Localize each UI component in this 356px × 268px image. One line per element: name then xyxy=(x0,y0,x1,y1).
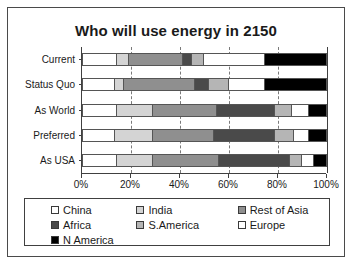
legend-swatch-icon xyxy=(51,206,59,214)
chart-title: Who will use energy in 2150 xyxy=(8,22,344,39)
bar-row: Preferred xyxy=(82,129,327,142)
chart-legend: ChinaIndiaRest of AsiaAfricaS.AmericaEur… xyxy=(24,198,330,246)
legend-item-n-america[interactable]: N America xyxy=(25,234,137,246)
legend-label: China xyxy=(63,204,92,216)
stacked-bar xyxy=(82,129,327,142)
bar-segment-rest-of-asia xyxy=(153,130,214,141)
legend-label: India xyxy=(148,204,172,216)
bar-segment-africa xyxy=(183,54,193,65)
bar-segment-rest-of-asia xyxy=(129,54,182,65)
bar-segment-rest-of-asia xyxy=(153,105,216,116)
bar-row: Status Quo xyxy=(82,78,327,91)
bar-segment-europe xyxy=(229,79,265,90)
bar-row: As USA xyxy=(82,154,327,167)
legend-label: N America xyxy=(63,234,114,246)
bar-segment-china xyxy=(83,130,115,141)
bar-segment-europe xyxy=(302,155,314,166)
x-axis-label-0: 0% xyxy=(61,179,101,190)
bar-segment-europe xyxy=(292,105,309,116)
x-axis-label-40: 40% xyxy=(159,179,199,190)
bar-segment-china xyxy=(83,155,117,166)
bar-row: Current xyxy=(82,53,327,66)
bar-segment-s-america xyxy=(275,105,292,116)
legend-label: Africa xyxy=(63,219,91,231)
stacked-bar xyxy=(82,78,327,91)
legend-swatch-icon xyxy=(238,206,246,214)
legend-item-china[interactable]: China xyxy=(25,204,136,216)
legend-swatch-icon xyxy=(136,221,144,229)
x-axis-label-80: 80% xyxy=(257,179,297,190)
x-axis: 0%20%40%60%80%100% xyxy=(81,173,326,174)
category-label-current: Current xyxy=(5,53,75,66)
legend-item-rest-of-asia[interactable]: Rest of Asia xyxy=(238,204,329,216)
bar-segment-s-america xyxy=(209,79,228,90)
stacked-bar xyxy=(82,104,327,117)
x-axis-tick xyxy=(326,174,327,178)
bar-segment-china xyxy=(83,79,115,90)
bar-segment-india xyxy=(117,155,153,166)
legend-label: Rest of Asia xyxy=(250,204,309,216)
bar-segment-n-america xyxy=(314,155,326,166)
legend-swatch-icon xyxy=(136,206,144,214)
stacked-bar xyxy=(82,154,327,167)
x-axis-label-60: 60% xyxy=(208,179,248,190)
bar-segment-africa xyxy=(217,105,275,116)
bar-series-container: CurrentStatus QuoAs WorldPreferredAs USA xyxy=(82,47,327,173)
legend-swatch-icon xyxy=(51,221,59,229)
legend-row: N America xyxy=(25,232,329,247)
legend-item-india[interactable]: India xyxy=(136,204,237,216)
bar-segment-s-america xyxy=(290,155,302,166)
category-label-status-quo: Status Quo xyxy=(5,78,75,91)
bar-segment-india xyxy=(115,130,154,141)
legend-row: AfricaS.AmericaEurope xyxy=(25,217,329,232)
bar-segment-africa xyxy=(214,130,275,141)
x-axis-tick xyxy=(130,174,131,178)
category-label-preferred: Preferred xyxy=(5,129,75,142)
category-label-as-usa: As USA xyxy=(5,154,75,167)
bar-segment-n-america xyxy=(309,130,326,141)
category-label-as-world: As World xyxy=(5,104,75,117)
legend-item-s-america[interactable]: S.America xyxy=(136,219,237,231)
legend-item-africa[interactable]: Africa xyxy=(25,219,136,231)
bar-segment-africa xyxy=(219,155,289,166)
x-axis-label-100: 100% xyxy=(306,179,346,190)
x-axis-tick xyxy=(179,174,180,178)
x-axis-tick xyxy=(277,174,278,178)
bar-segment-rest-of-asia xyxy=(153,155,219,166)
legend-swatch-icon xyxy=(51,236,59,244)
x-axis-label-20: 20% xyxy=(110,179,150,190)
bar-segment-china xyxy=(83,54,117,65)
x-axis-tick xyxy=(228,174,229,178)
legend-item-europe[interactable]: Europe xyxy=(238,219,329,231)
bar-segment-china xyxy=(83,105,117,116)
bar-segment-s-america xyxy=(275,130,294,141)
bar-row: As World xyxy=(82,104,327,117)
bar-segment-europe xyxy=(294,130,309,141)
gridline-100 xyxy=(327,47,328,173)
legend-label: S.America xyxy=(148,219,199,231)
stacked-bar xyxy=(82,53,327,66)
bar-segment-europe xyxy=(205,54,266,65)
x-axis-tick xyxy=(81,174,82,178)
bar-segment-n-america xyxy=(309,105,326,116)
bar-segment-india xyxy=(117,54,129,65)
bar-segment-india xyxy=(117,105,153,116)
bar-segment-s-america xyxy=(192,54,204,65)
legend-label: Europe xyxy=(250,219,285,231)
legend-swatch-icon xyxy=(238,221,246,229)
bar-segment-n-america xyxy=(265,54,326,65)
legend-row: ChinaIndiaRest of Asia xyxy=(25,202,329,217)
chart-frame: Who will use energy in 2150 CurrentStatu… xyxy=(7,7,345,257)
bar-segment-india xyxy=(115,79,125,90)
bar-segment-n-america xyxy=(265,79,326,90)
bar-segment-rest-of-asia xyxy=(124,79,194,90)
bar-segment-africa xyxy=(195,79,210,90)
plot-area: CurrentStatus QuoAs WorldPreferredAs USA xyxy=(81,47,327,173)
